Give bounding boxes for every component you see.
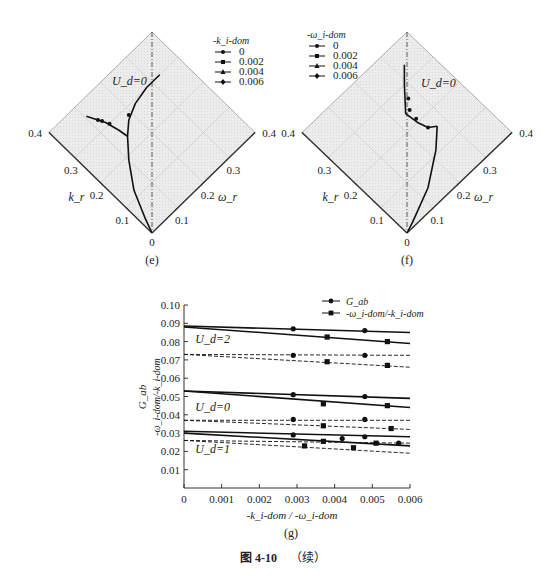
legend-marker-circle: [221, 50, 225, 54]
right-axis-label: ω_r: [218, 190, 237, 204]
annotation-ud: U_d=1: [195, 442, 230, 456]
data-point-circle: [340, 436, 345, 441]
right-axis-tick-label: 0.1: [175, 214, 189, 226]
data-point-square: [389, 426, 394, 431]
data-point-square: [321, 401, 326, 406]
y-axis-label-bottom: -ω_i-dom/-k_i-dom: [151, 358, 162, 436]
right-axis-tick-label: 0.4: [262, 127, 276, 139]
legend-marker-circle: [329, 299, 334, 304]
data-point-circle: [362, 394, 367, 399]
x-tick-label: 0.004: [322, 493, 347, 505]
left-axis-tick-label: 0.2: [90, 189, 104, 201]
left-axis-tick-label: 0.1: [115, 214, 129, 226]
panel-caption: (f): [401, 253, 413, 267]
legend-title: -ω_i-dom: [307, 29, 346, 40]
right-axis-tick-label: 0.2: [201, 189, 215, 201]
legend-marker-square: [315, 54, 319, 58]
y-tick-label: 0.04: [161, 409, 181, 421]
y-tick-label: 0.01: [161, 464, 180, 476]
panel-f-diamond-chart: 0.10.20.30.40.10.20.30.40k_rω_rU_d=0-ω_i…: [281, 29, 533, 267]
data-point-square: [351, 445, 356, 450]
figure-canvas: 0.10.20.30.40.10.20.30.40k_rω_rU_d=0-k_i…: [0, 0, 557, 578]
x-tick-label: 0: [181, 493, 187, 505]
panel-caption: (e): [145, 253, 158, 267]
series-line: [184, 420, 410, 429]
x-tick-label: 0.003: [285, 493, 310, 505]
curve-marker: [426, 125, 430, 129]
left-axis-tick-label: 0.1: [370, 214, 384, 226]
annotation-ud: U_d=0: [421, 76, 456, 90]
y-tick-label: 0.02: [161, 445, 180, 457]
data-point-square: [385, 363, 390, 368]
y-tick-label: 0.07: [161, 354, 181, 366]
y-tick-label: 0.03: [161, 427, 181, 439]
right-axis-tick-label: 0.3: [226, 164, 240, 176]
left-axis-tick-label: 0.4: [28, 127, 42, 139]
data-point-circle: [362, 328, 367, 333]
curve-marker: [408, 108, 412, 112]
legend-label: 0.006: [333, 69, 358, 81]
legend-marker-square: [329, 311, 334, 316]
left-axis-label: k_r: [69, 190, 85, 204]
curve-marker: [108, 122, 112, 126]
curve-marker: [127, 113, 131, 117]
origin-label: 0: [149, 236, 155, 248]
data-point-square: [325, 334, 330, 339]
legend-label: -ω_i-dom/-k_i-dom: [346, 308, 424, 319]
legend-marker-diamond: [315, 73, 320, 79]
data-point-circle: [291, 432, 296, 437]
data-point-circle: [362, 353, 367, 358]
legend-label: G_ab: [346, 296, 368, 307]
data-point-circle: [291, 392, 296, 397]
data-point-square: [321, 439, 326, 444]
data-point-circle: [396, 441, 401, 446]
data-point-square: [325, 359, 330, 364]
left-axis-tick-label: 0.3: [64, 164, 78, 176]
data-point-square: [321, 423, 326, 428]
right-axis-tick-label: 0.4: [519, 127, 533, 139]
right-axis-tick-label: 0.1: [430, 214, 444, 226]
series-line: [184, 391, 410, 398]
legend-marker-diamond: [221, 79, 226, 85]
y-tick-label: 0.09: [161, 317, 181, 329]
origin-label: 0: [404, 236, 410, 248]
data-point-square: [385, 339, 390, 344]
left-axis-tick-label: 0.4: [281, 127, 295, 139]
x-tick-label: 0.005: [360, 493, 385, 505]
data-point-square: [385, 403, 390, 408]
legend-marker-square: [221, 60, 225, 64]
data-point-circle: [291, 326, 296, 331]
curve-marker: [406, 97, 410, 101]
left-axis-tick-label: 0.3: [317, 164, 331, 176]
right-axis-label: ω_r: [474, 190, 493, 204]
series-line: [184, 431, 410, 436]
y-axis-label-group: G_ab-ω_i-dom/-k_i-dom: [136, 358, 162, 436]
series-line: [184, 354, 410, 367]
legend-label: 0.006: [239, 75, 264, 87]
curve-marker: [100, 119, 104, 123]
x-axis-label: -k_i-dom / -ω_i-dom: [247, 509, 338, 521]
legend-marker-circle: [315, 44, 319, 48]
y-tick-label: 0.10: [161, 299, 181, 311]
curve-marker: [96, 118, 100, 122]
data-point-circle: [362, 434, 367, 439]
panel-caption: (g): [284, 526, 298, 540]
y-tick-label: 0.08: [161, 336, 181, 348]
figure-caption-suffix: （续）: [290, 551, 326, 565]
y-tick-label: 0.05: [161, 391, 181, 403]
annotation-ud: U_d=2: [195, 332, 230, 346]
right-axis-tick-label: 0.3: [483, 164, 497, 176]
figure-caption-number: 图 4-10: [240, 551, 277, 565]
y-axis-label-top: G_ab: [136, 384, 148, 409]
left-axis-tick-label: 0.2: [344, 189, 358, 201]
annotation-ud: U_d=0: [195, 400, 230, 414]
panel-g-line-chart: 0.010.020.030.040.050.060.070.080.090.10…: [136, 296, 424, 540]
x-tick-label: 0.001: [209, 493, 234, 505]
left-axis-label: k_r: [323, 190, 339, 204]
curve-marker: [414, 117, 418, 121]
x-tick-label: 0.002: [247, 493, 272, 505]
data-point-circle: [362, 417, 367, 422]
data-point-square: [302, 443, 307, 448]
x-tick-label: 0.006: [398, 493, 423, 505]
data-point-circle: [291, 417, 296, 422]
